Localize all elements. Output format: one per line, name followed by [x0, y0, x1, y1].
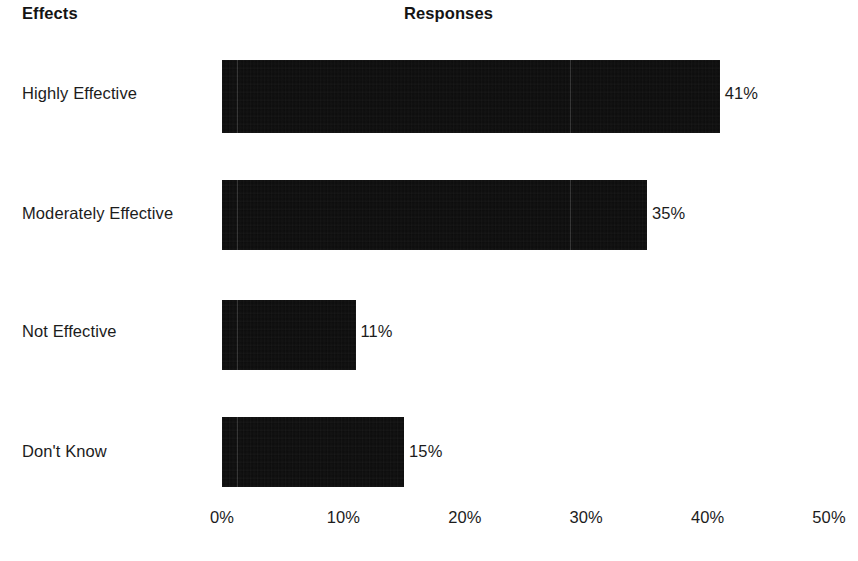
bar-gridline-artifact	[237, 417, 238, 487]
bar-gridline-artifact	[570, 60, 571, 133]
x-tick-label: 40%	[691, 508, 724, 527]
bar-value-label: 41%	[725, 84, 758, 103]
bar-category-label: Moderately Effective	[22, 204, 173, 223]
bar-chart: Effects Responses Highly Effective41%Mod…	[0, 0, 858, 561]
x-tick-label: 30%	[570, 508, 603, 527]
bar-value-label: 15%	[409, 442, 442, 461]
x-axis: 0%10%20%30%40%50%	[0, 508, 858, 548]
bar-gridline-artifact	[237, 180, 238, 250]
bar	[222, 180, 647, 250]
bar-value-label: 35%	[652, 204, 685, 223]
bar-category-label: Don't Know	[22, 442, 107, 461]
bar-gridline-artifact	[570, 180, 571, 250]
bar-value-label: 11%	[361, 322, 393, 341]
bar-gridline-artifact	[237, 300, 238, 370]
bar-gridline-artifact	[237, 60, 238, 133]
bar-category-label: Highly Effective	[22, 84, 137, 103]
x-tick-label: 50%	[812, 508, 845, 527]
x-tick-label: 0%	[210, 508, 234, 527]
bar	[222, 417, 404, 487]
x-tick-label: 20%	[448, 508, 481, 527]
plot-area: Highly Effective41%Moderately Effective3…	[0, 0, 858, 500]
bar-category-label: Not Effective	[22, 322, 117, 341]
bar	[222, 300, 356, 370]
bar	[222, 60, 720, 133]
x-tick-label: 10%	[327, 508, 360, 527]
